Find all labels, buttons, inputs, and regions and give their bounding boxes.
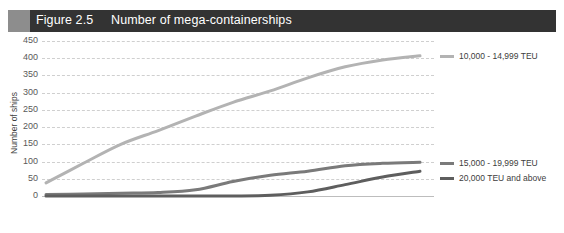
page-title: Number of mega-containerships bbox=[111, 13, 292, 27]
legend-label: 20,000 TEU and above bbox=[459, 172, 546, 184]
plot-area bbox=[42, 32, 434, 233]
line-chart: Number of ships 450400350300250200150100… bbox=[0, 32, 564, 233]
legend-color-swatch bbox=[440, 177, 454, 180]
series-line bbox=[46, 162, 420, 194]
legend-color-swatch bbox=[440, 162, 454, 165]
legend-color-swatch bbox=[440, 55, 454, 58]
chart-legend: 10,000 - 14,999 TEU15,000 - 19,999 TEU20… bbox=[440, 32, 564, 233]
y-axis-tick-labels: 450400350300250200150100500 bbox=[4, 32, 38, 233]
y-axis-tick-label: 350 bbox=[4, 70, 38, 79]
y-axis-tick-label: 200 bbox=[4, 122, 38, 131]
title-accent-block bbox=[8, 10, 30, 32]
legend-label: 10,000 - 14,999 TEU bbox=[459, 50, 538, 62]
y-axis-tick-label: 0 bbox=[4, 191, 38, 200]
y-axis-tick-label: 400 bbox=[4, 53, 38, 62]
legend-label: 15,000 - 19,999 TEU bbox=[459, 157, 538, 169]
y-axis-tick-label: 150 bbox=[4, 139, 38, 148]
y-axis-tick-label: 300 bbox=[4, 88, 38, 97]
y-axis-tick-label: 450 bbox=[4, 36, 38, 45]
figure-number-label: Figure 2.5 bbox=[36, 13, 93, 27]
series-lines bbox=[42, 32, 434, 233]
figure-title-band: Figure 2.5 Number of mega-containerships bbox=[8, 10, 556, 32]
y-axis-tick-label: 100 bbox=[4, 157, 38, 166]
y-axis-tick-label: 50 bbox=[4, 174, 38, 183]
y-axis-tick-label: 250 bbox=[4, 105, 38, 114]
